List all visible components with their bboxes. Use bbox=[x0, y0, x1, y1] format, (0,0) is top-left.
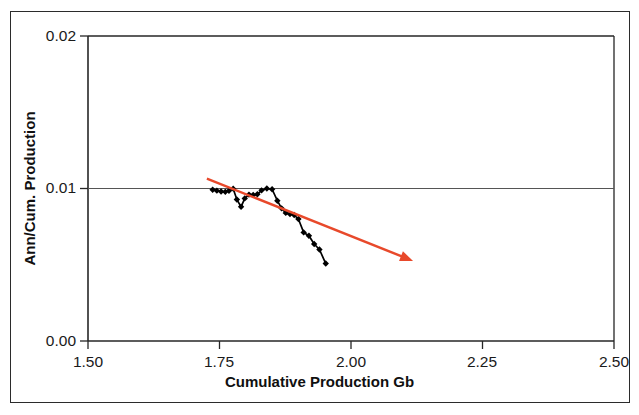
chart-figure: 0.02 0.01 0.00 1.50 1.75 2.00 2.25 2.50 … bbox=[0, 0, 639, 415]
data-point-marker bbox=[274, 198, 280, 204]
data-point-marker bbox=[269, 186, 275, 192]
data-series-line bbox=[213, 189, 326, 264]
data-series-markers bbox=[209, 185, 328, 266]
y-tick-label-0.00: 0.00 bbox=[22, 332, 76, 350]
x-axis-title: Cumulative Production Gb bbox=[0, 373, 639, 390]
y-tick-marks bbox=[80, 36, 88, 341]
y-axis-title: Ann/Cum. Production bbox=[21, 64, 38, 314]
x-tick-label-1.50: 1.50 bbox=[58, 353, 118, 371]
x-tick-marks bbox=[88, 341, 614, 349]
y-tick-label-0.02: 0.02 bbox=[22, 27, 76, 45]
decline-trend-arrow bbox=[207, 179, 413, 261]
x-tick-label-2.50: 2.50 bbox=[584, 353, 639, 371]
data-point-marker bbox=[264, 185, 270, 191]
x-tick-label-2.00: 2.00 bbox=[321, 353, 381, 371]
data-point-marker bbox=[323, 260, 329, 266]
x-tick-label-1.75: 1.75 bbox=[189, 353, 249, 371]
x-tick-label-2.25: 2.25 bbox=[452, 353, 512, 371]
